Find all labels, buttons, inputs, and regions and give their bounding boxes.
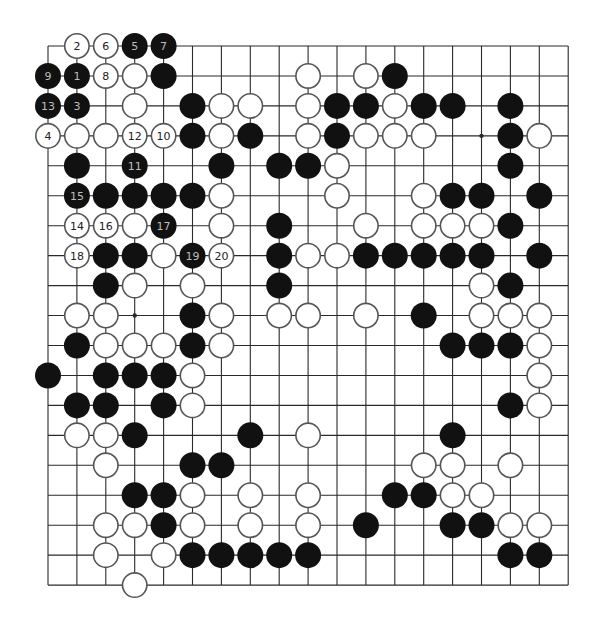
white-stone[interactable]	[94, 124, 118, 148]
black-stone[interactable]	[411, 482, 437, 508]
black-stone[interactable]	[382, 63, 408, 89]
white-stone[interactable]	[325, 243, 349, 267]
black-stone[interactable]	[266, 153, 292, 179]
white-stone[interactable]	[209, 333, 233, 357]
white-stone[interactable]: 6	[94, 34, 118, 58]
white-stone[interactable]	[123, 94, 147, 118]
white-stone[interactable]	[412, 184, 436, 208]
black-stone[interactable]	[122, 362, 148, 388]
white-stone[interactable]	[383, 94, 407, 118]
black-stone[interactable]	[440, 243, 466, 269]
black-stone[interactable]	[497, 153, 523, 179]
black-stone[interactable]	[469, 512, 495, 538]
black-stone[interactable]: 15	[64, 183, 90, 209]
white-stone[interactable]	[123, 273, 147, 297]
black-stone[interactable]	[324, 93, 350, 119]
black-stone[interactable]	[324, 123, 350, 149]
white-stone[interactable]: 2	[65, 34, 89, 58]
white-stone[interactable]	[94, 453, 118, 477]
white-stone[interactable]	[296, 94, 320, 118]
white-stone[interactable]	[296, 513, 320, 537]
black-stone[interactable]	[151, 63, 177, 89]
white-stone[interactable]	[123, 333, 147, 357]
black-stone[interactable]	[180, 93, 206, 119]
white-stone[interactable]	[238, 513, 262, 537]
white-stone[interactable]	[469, 303, 493, 327]
black-stone[interactable]	[411, 93, 437, 119]
black-stone[interactable]	[266, 243, 292, 269]
black-stone[interactable]	[64, 333, 90, 359]
black-stone[interactable]	[151, 392, 177, 418]
black-stone[interactable]	[64, 392, 90, 418]
black-stone[interactable]	[180, 542, 206, 568]
black-stone[interactable]	[440, 512, 466, 538]
black-stone[interactable]	[295, 542, 321, 568]
white-stone[interactable]	[123, 64, 147, 88]
white-stone[interactable]	[354, 214, 378, 238]
white-stone[interactable]	[412, 453, 436, 477]
white-stone[interactable]	[123, 573, 147, 597]
white-stone[interactable]	[296, 483, 320, 507]
black-stone[interactable]: 7	[151, 33, 177, 59]
white-stone[interactable]	[180, 363, 204, 387]
white-stone[interactable]	[151, 333, 175, 357]
white-stone[interactable]: 12	[123, 124, 147, 148]
black-stone[interactable]	[266, 273, 292, 299]
black-stone[interactable]	[497, 542, 523, 568]
black-stone[interactable]	[469, 243, 495, 269]
black-stone[interactable]	[497, 273, 523, 299]
white-stone[interactable]	[65, 303, 89, 327]
white-stone[interactable]	[209, 94, 233, 118]
black-stone[interactable]	[497, 93, 523, 119]
black-stone[interactable]	[180, 123, 206, 149]
white-stone[interactable]	[180, 513, 204, 537]
white-stone[interactable]	[296, 64, 320, 88]
white-stone[interactable]	[209, 184, 233, 208]
white-stone[interactable]	[296, 423, 320, 447]
black-stone[interactable]	[93, 243, 119, 269]
white-stone[interactable]	[238, 483, 262, 507]
black-stone[interactable]	[295, 153, 321, 179]
white-stone[interactable]	[94, 333, 118, 357]
black-stone[interactable]	[122, 422, 148, 448]
black-stone[interactable]	[440, 183, 466, 209]
black-stone[interactable]	[526, 542, 552, 568]
black-stone[interactable]: 17	[151, 213, 177, 239]
white-stone[interactable]	[238, 94, 262, 118]
white-stone[interactable]	[527, 333, 551, 357]
white-stone[interactable]	[209, 214, 233, 238]
white-stone[interactable]	[527, 513, 551, 537]
black-stone[interactable]	[526, 183, 552, 209]
white-stone[interactable]	[469, 214, 493, 238]
black-stone[interactable]	[151, 512, 177, 538]
white-stone[interactable]	[94, 423, 118, 447]
white-stone[interactable]	[498, 453, 522, 477]
black-stone[interactable]	[497, 333, 523, 359]
white-stone[interactable]	[440, 483, 464, 507]
white-stone[interactable]	[123, 513, 147, 537]
black-stone[interactable]	[237, 422, 263, 448]
white-stone[interactable]	[469, 483, 493, 507]
black-stone[interactable]: 9	[35, 63, 61, 89]
white-stone[interactable]: 4	[36, 124, 60, 148]
black-stone[interactable]	[64, 153, 90, 179]
black-stone[interactable]	[440, 333, 466, 359]
white-stone[interactable]	[267, 303, 291, 327]
white-stone[interactable]	[469, 273, 493, 297]
white-stone[interactable]	[498, 513, 522, 537]
black-stone[interactable]	[237, 123, 263, 149]
black-stone[interactable]	[353, 243, 379, 269]
white-stone[interactable]	[527, 363, 551, 387]
white-stone[interactable]	[527, 303, 551, 327]
black-stone[interactable]: 3	[64, 93, 90, 119]
white-stone[interactable]	[325, 184, 349, 208]
black-stone[interactable]: 5	[122, 33, 148, 59]
white-stone[interactable]	[151, 243, 175, 267]
white-stone[interactable]	[65, 124, 89, 148]
black-stone[interactable]	[440, 93, 466, 119]
white-stone[interactable]	[209, 303, 233, 327]
white-stone[interactable]	[354, 303, 378, 327]
white-stone[interactable]: 20	[209, 243, 233, 267]
black-stone[interactable]	[469, 333, 495, 359]
white-stone[interactable]	[440, 214, 464, 238]
